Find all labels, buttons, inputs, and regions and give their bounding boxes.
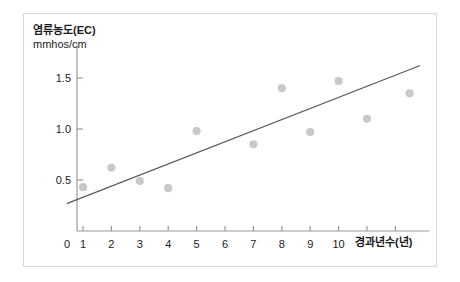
x-tick-label: 3 — [137, 238, 143, 250]
data-point — [306, 128, 314, 136]
chart-figure: 염류농도(EC) mmhos/cm 경과년수(년) 0.51.01.512345… — [0, 0, 460, 282]
y-tick-label: 1.5 — [47, 72, 71, 84]
trendline-path — [67, 66, 419, 204]
data-point — [406, 89, 414, 97]
x-tick-label: 1 — [80, 238, 86, 250]
y-axis-unit-label: mmhos/cm — [33, 38, 87, 52]
data-point — [335, 77, 343, 85]
x-tick-label: 5 — [194, 238, 200, 250]
x-tick-label: 9 — [307, 238, 313, 250]
trendline — [67, 66, 419, 204]
data-point — [164, 184, 172, 192]
data-point — [249, 140, 257, 148]
origin-label: 0 — [64, 238, 70, 250]
x-tick-label: 6 — [222, 238, 228, 250]
x-tick-label: 8 — [279, 238, 285, 250]
x-tick-label: 7 — [250, 238, 256, 250]
axes-group — [77, 45, 429, 231]
data-point — [107, 164, 115, 172]
y-axis-title: 염류농도(EC) — [33, 24, 96, 38]
x-tick-label: 10 — [332, 238, 344, 250]
data-point — [136, 177, 144, 185]
y-tick-label: 0.5 — [47, 174, 71, 186]
data-point — [193, 127, 201, 135]
data-points — [79, 77, 414, 192]
data-point — [79, 183, 87, 191]
data-point — [363, 115, 371, 123]
y-tick-label: 1.0 — [47, 123, 71, 135]
x-tick-label: 2 — [108, 238, 114, 250]
x-axis-title: 경과년수(년) — [355, 236, 412, 250]
data-point — [278, 84, 286, 92]
x-tick-label: 4 — [165, 238, 171, 250]
